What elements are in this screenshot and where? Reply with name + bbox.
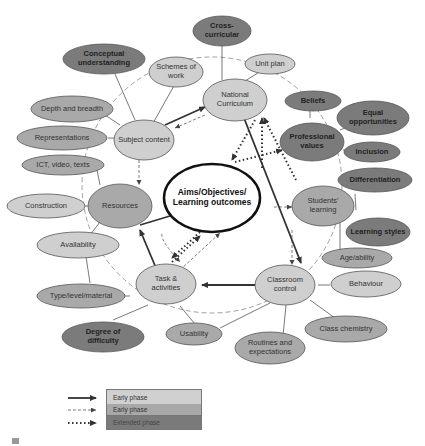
node-differentiation[interactable] [338,168,412,192]
node-representations[interactable] [17,126,107,150]
node-students-learning[interactable] [292,186,354,226]
node-routines-and-expectations[interactable] [235,332,305,364]
node-inclusion[interactable] [285,91,341,111]
node-task-activities[interactable] [136,264,196,304]
caption-marker [12,438,19,444]
node-classroom-control[interactable] [255,265,315,305]
node-professional-values[interactable] [280,123,344,161]
node-center-aims[interactable] [164,164,260,232]
node-type-level-material[interactable] [37,284,125,308]
node-availability[interactable] [37,232,119,258]
node-construction[interactable] [7,194,85,218]
node-beliefs[interactable] [344,142,400,162]
node-subject-content[interactable] [114,120,174,160]
node-learning-styles[interactable] [346,218,410,246]
legend-arrows [68,398,96,423]
node-unit-plan[interactable] [245,54,295,74]
concept-map: Aims/Objectives/ Learning outcomes Natio… [0,0,425,446]
node-ict-video-texts[interactable] [22,155,104,175]
node-equal-opportunities[interactable] [337,101,409,135]
node-degree-of-difficulty[interactable] [62,322,144,352]
node-resources[interactable] [88,184,152,228]
node-age-ability[interactable] [322,248,392,268]
legend-item-extended-dotted: Extended phase [106,416,202,430]
node-depth-and-breadth[interactable] [31,96,113,122]
node-cross-curricular[interactable] [193,16,251,46]
node-behaviour[interactable] [331,271,401,297]
node-conceptual-understanding[interactable] [63,44,145,74]
legend-label: Extended phase [113,419,160,426]
legend-item-early-solid: Early phase [106,389,202,405]
node-national-curriculum[interactable] [203,79,267,121]
node-class-chemistry[interactable] [305,316,387,342]
diagram-canvas [0,0,425,446]
legend-label: Early phase [113,394,147,401]
legend-label: Early phase [113,406,147,413]
node-usability[interactable] [166,323,222,345]
node-schemes-of-work[interactable] [149,57,203,87]
legend-item-early-dashed: Early phase [106,404,202,416]
